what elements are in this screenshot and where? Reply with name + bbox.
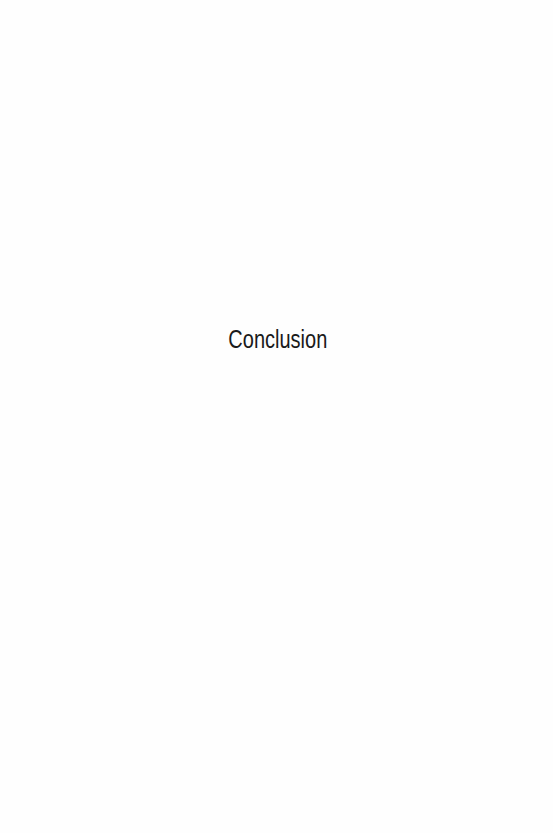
document-page: Conclusion xyxy=(0,0,553,833)
section-title: Conclusion xyxy=(229,323,328,355)
heading-container: Conclusion xyxy=(0,306,553,372)
